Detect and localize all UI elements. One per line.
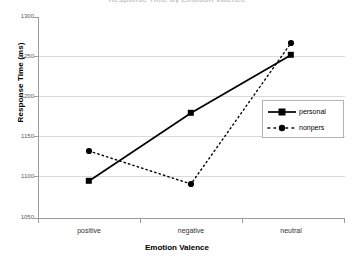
legend-sample-nonpers xyxy=(267,121,297,135)
x-tick-label-positive: positive xyxy=(54,227,124,235)
data-point-nonpers-neutral xyxy=(288,40,294,46)
series-line-personal xyxy=(89,55,291,181)
chart-container: Response Time by Emotion Valence Respons… xyxy=(0,0,354,262)
legend-label-nonpers: nonpers xyxy=(299,121,324,135)
data-point-nonpers-negative xyxy=(188,181,194,187)
legend-sample-personal xyxy=(267,105,297,119)
data-point-personal-negative xyxy=(188,110,194,116)
data-point-nonpers-positive xyxy=(86,148,92,154)
data-point-personal-neutral xyxy=(288,52,294,58)
legend-item-nonpers: nonpers xyxy=(267,121,343,135)
chart-legend: personal nonpers xyxy=(262,100,344,138)
data-point-personal-positive xyxy=(86,178,92,184)
legend-label-personal: personal xyxy=(299,105,326,119)
x-axis-title: Emotion Valence xyxy=(0,243,354,252)
y-axis-ticks xyxy=(34,18,38,219)
legend-item-personal: personal xyxy=(267,105,343,119)
x-tick-label-negative: negative xyxy=(156,227,226,235)
x-tick-label-neutral: neutral xyxy=(256,227,326,235)
